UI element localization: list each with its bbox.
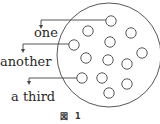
- label-one: one: [34, 25, 58, 40]
- small-circles: [69, 16, 147, 98]
- small-circle: [122, 59, 132, 69]
- diagram: one another a third 図 1: [0, 0, 160, 124]
- leader-another: another: [0, 44, 69, 69]
- caption-prefix: 図: [60, 112, 68, 121]
- label-third: a third: [11, 89, 55, 104]
- small-circle: [122, 79, 132, 89]
- small-circle: [104, 88, 114, 98]
- leader-one: one: [34, 20, 106, 40]
- arrowhead-third: [27, 81, 31, 85]
- small-circle: [83, 26, 93, 36]
- small-circle: [137, 48, 147, 58]
- leader-line-another: [23, 44, 69, 50]
- small-circle: [77, 73, 87, 83]
- small-circle: [105, 37, 115, 47]
- small-circle: [106, 16, 116, 26]
- caption-number: 1: [75, 112, 81, 121]
- small-circle: [69, 40, 79, 50]
- small-circle: [81, 53, 91, 63]
- leader-line-third: [29, 78, 77, 82]
- label-another: another: [0, 54, 52, 69]
- leader-third: a third: [11, 78, 77, 104]
- figure-caption: 図 1: [60, 112, 81, 121]
- arrowhead-another: [21, 49, 25, 53]
- small-circle: [103, 55, 113, 65]
- small-circle: [126, 28, 136, 38]
- small-circle: [97, 73, 107, 83]
